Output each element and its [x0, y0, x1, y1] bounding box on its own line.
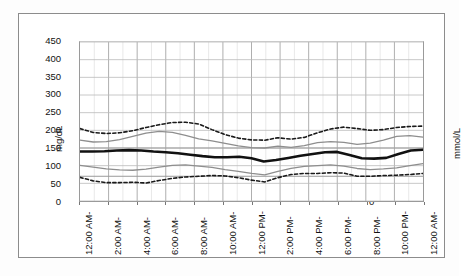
x-tick-label: 8:00 AM-	[198, 217, 209, 255]
x-tick-mark	[280, 202, 281, 205]
x-tick-mark	[424, 202, 425, 205]
x-tick-label: 4:00 AM-	[141, 217, 152, 255]
x-tick-mark	[309, 202, 310, 205]
x-tick-mark	[395, 202, 396, 205]
x-tick-label: 10:00 PM-	[399, 211, 410, 255]
y-tick-label: 100	[33, 161, 61, 170]
plot-area	[79, 41, 424, 202]
x-tick-mark	[108, 202, 109, 205]
x-tick-mark	[338, 202, 339, 205]
series-line	[80, 122, 423, 140]
x-tick-mark	[165, 202, 166, 205]
series-line	[80, 173, 423, 183]
x-tick-label: 6:00 PM-	[342, 216, 353, 255]
y-tick-label: 350	[33, 72, 61, 81]
x-tick-label: 4:00 PM-	[313, 216, 324, 255]
y-tick-label: 300	[33, 89, 61, 98]
x-tick-mark	[252, 202, 253, 205]
chart-frame: 450 400 350 300 250 200 150 100 50 0 24 …	[18, 13, 445, 258]
x-tick-label: 12:00 AM-	[428, 212, 439, 255]
y-axis-title: mg/dL	[53, 126, 64, 152]
y-tick-label: 400	[33, 54, 61, 63]
x-tick-label: 2:00 PM-	[284, 216, 295, 255]
series-lines	[80, 42, 423, 201]
x-tick-mark	[223, 202, 224, 205]
x-tick-label: 10:00 AM-	[227, 212, 238, 255]
y2-axis-title: mmol/L	[451, 128, 462, 159]
x-tick-label: 12:00 PM-	[256, 211, 267, 255]
x-tick-label: 2:00 AM-	[112, 217, 123, 255]
y-tick-label: 0	[33, 197, 61, 206]
y-tick-label: 50	[33, 179, 61, 188]
x-tick-label: 6:00 AM-	[169, 217, 180, 255]
y-tick-label: 250	[33, 107, 61, 116]
x-tick-mark	[194, 202, 195, 205]
y-tick-label: 450	[33, 36, 61, 45]
x-tick-label: 8:00 PM-	[371, 216, 382, 255]
x-tick-mark	[79, 202, 80, 205]
series-line	[80, 150, 423, 162]
x-tick-label: 12:00 AM-	[83, 212, 94, 255]
series-line	[80, 164, 423, 175]
x-tick-mark	[137, 202, 138, 205]
x-tick-mark	[367, 202, 368, 205]
